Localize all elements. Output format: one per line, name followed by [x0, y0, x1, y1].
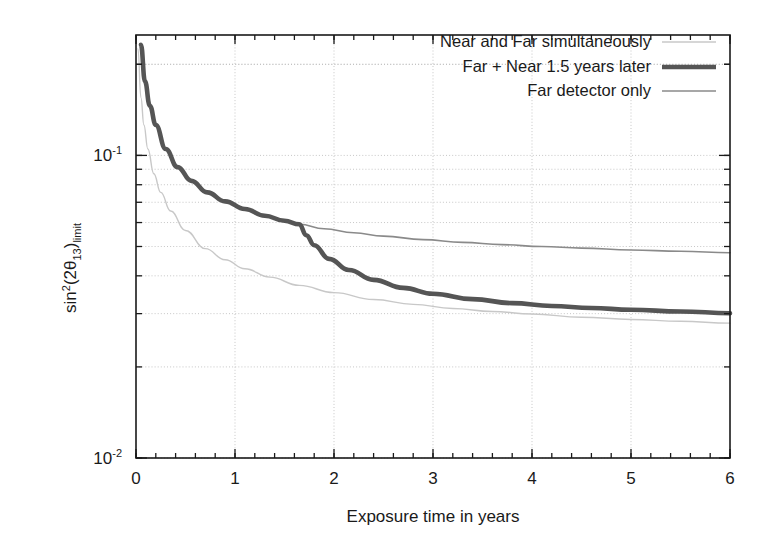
y-title-sub13: 13 [71, 248, 83, 260]
x-axis-title: Exposure time in years [347, 507, 520, 526]
y-title-mid: (2θ [61, 261, 80, 286]
legend-label-0: Near and Far simultaneously [440, 32, 652, 50]
x-tick-label: 0 [131, 469, 140, 488]
legend-label-1: Far + Near 1.5 years later [463, 57, 652, 75]
x-tick-label: 2 [329, 469, 338, 488]
x-tick-label: 6 [725, 469, 734, 488]
y-title-sublimit: limit [71, 223, 83, 243]
x-tick-label: 3 [428, 469, 437, 488]
figure-background [0, 0, 779, 542]
y-title-sin: sin [61, 291, 80, 313]
x-tick-label: 1 [230, 469, 239, 488]
exposure-time-sensitivity-plot: 012345610-210-1 Near and Far simultaneou… [0, 0, 779, 542]
x-tick-label: 4 [527, 469, 536, 488]
legend-label-2: Far detector only [527, 81, 652, 99]
x-tick-label: 5 [626, 469, 635, 488]
chart-figure: 012345610-210-1 Near and Far simultaneou… [0, 0, 779, 542]
